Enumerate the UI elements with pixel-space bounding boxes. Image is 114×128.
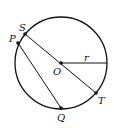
label-q: Q <box>57 112 65 123</box>
label-o: O <box>53 66 61 77</box>
label-p: P <box>8 33 16 44</box>
label-r: r <box>84 52 90 63</box>
label-s: S <box>19 22 26 33</box>
point-o <box>59 61 63 65</box>
point-p <box>16 41 20 45</box>
point-q <box>59 106 63 110</box>
circle-diagram: S P O T Q r <box>0 0 114 128</box>
label-t: T <box>98 95 106 106</box>
